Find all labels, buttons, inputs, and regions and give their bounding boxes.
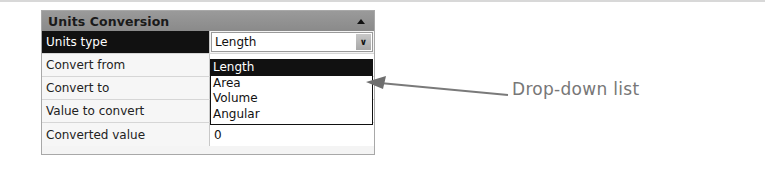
- annotation-arrow-icon: [0, 0, 765, 173]
